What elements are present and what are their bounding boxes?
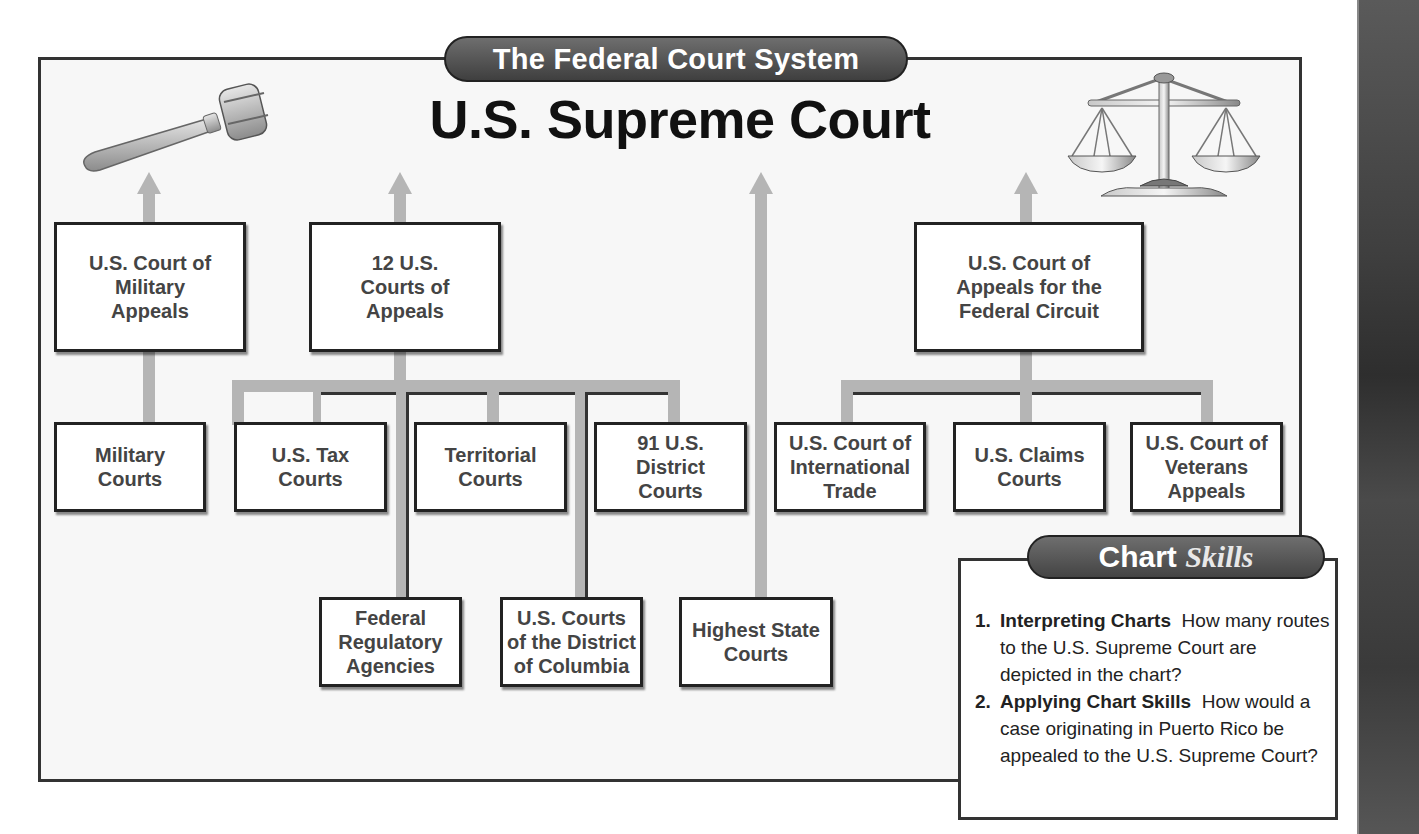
chart-skills-banner: Chart Skills	[1027, 535, 1325, 579]
connector	[1020, 380, 1032, 425]
connector	[841, 380, 853, 425]
court-box-territorial-courts: Territorial Courts	[414, 422, 567, 512]
court-box-regulatory-agencies: Federal Regulatory Agencies	[319, 597, 462, 687]
chart-title-banner: The Federal Court System	[444, 36, 908, 82]
connector	[232, 380, 244, 425]
court-box-veterans-appeals: U.S. Court of Veterans Appeals	[1130, 422, 1283, 512]
question-label: Interpreting Charts	[1000, 610, 1171, 631]
court-box-military-courts: Military Courts	[54, 422, 206, 512]
connector	[232, 380, 680, 392]
supreme-court-heading: U.S. Supreme Court	[400, 88, 960, 150]
question-number: 1.	[975, 607, 991, 634]
arrow-up-icon	[1014, 172, 1038, 194]
question-number: 2.	[975, 688, 991, 715]
scales-of-justice-icon	[1066, 68, 1262, 208]
connector	[143, 350, 155, 426]
chart-skills-title: Chart	[1098, 540, 1176, 573]
gavel-icon	[80, 78, 280, 178]
arrow-up-icon	[749, 172, 773, 194]
skills-question-1: 1. Interpreting Charts How many routes t…	[975, 607, 1330, 692]
connector	[143, 190, 155, 226]
page-edge-strip	[1357, 0, 1419, 834]
court-box-claims-courts: U.S. Claims Courts	[953, 422, 1106, 512]
connector	[313, 392, 321, 425]
connector	[585, 392, 588, 602]
arrow-up-icon	[388, 172, 412, 194]
court-box-district-courts: 91 U.S. District Courts	[594, 422, 747, 512]
court-box-tax-courts: U.S. Tax Courts	[234, 422, 387, 512]
connector	[668, 380, 680, 425]
question-label: Applying Chart Skills	[1000, 691, 1191, 712]
connector	[755, 190, 767, 602]
connector	[1020, 190, 1032, 226]
court-box-federal-circuit: U.S. Court of Appeals for the Federal Ci…	[914, 222, 1144, 352]
court-box-courts-of-appeals: 12 U.S. Courts of Appeals	[309, 222, 501, 352]
court-box-international-trade: U.S. Court of International Trade	[774, 422, 926, 512]
court-box-state-courts: Highest State Courts	[679, 597, 833, 687]
chart-skills-title-italic: Skills	[1185, 540, 1253, 573]
connector	[406, 392, 409, 602]
court-box-dc-courts: U.S. Courts of the District of Columbia	[500, 597, 643, 687]
connector	[1201, 380, 1213, 425]
connector	[487, 392, 499, 425]
skills-question-2: 2. Applying Chart Skills How would a cas…	[975, 688, 1330, 773]
court-box-military-appeals: U.S. Court of Military Appeals	[54, 222, 246, 352]
connector	[394, 190, 406, 226]
